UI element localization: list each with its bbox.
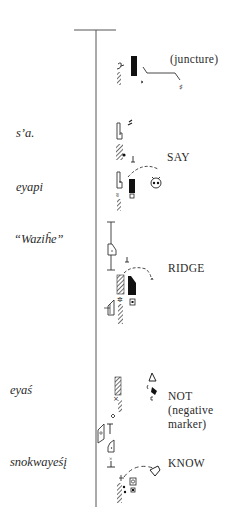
not-symbols: ⨯ [98, 373, 157, 443]
staff-line [74, 30, 116, 507]
notation-staff: ♯ ʬ ✲ ⨯ [0, 0, 228, 532]
svg-text:♯: ♯ [179, 83, 183, 92]
say-symbols: ʬ [116, 120, 161, 211]
ridge-symbols: ✲ [104, 222, 153, 324]
juncture-symbols: ♯ [117, 56, 183, 92]
svg-text:⨯: ⨯ [113, 395, 119, 403]
know-symbols: × [107, 440, 160, 503]
svg-text:✲: ✲ [117, 296, 123, 304]
svg-text:ʬ: ʬ [116, 192, 119, 198]
